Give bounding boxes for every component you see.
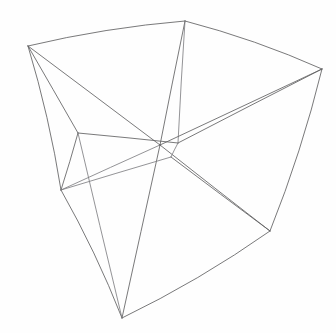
wireframe-polyhedron-sketch	[0, 0, 336, 333]
wireframe-figure-canvas	[0, 0, 336, 333]
paper-background	[0, 0, 336, 333]
